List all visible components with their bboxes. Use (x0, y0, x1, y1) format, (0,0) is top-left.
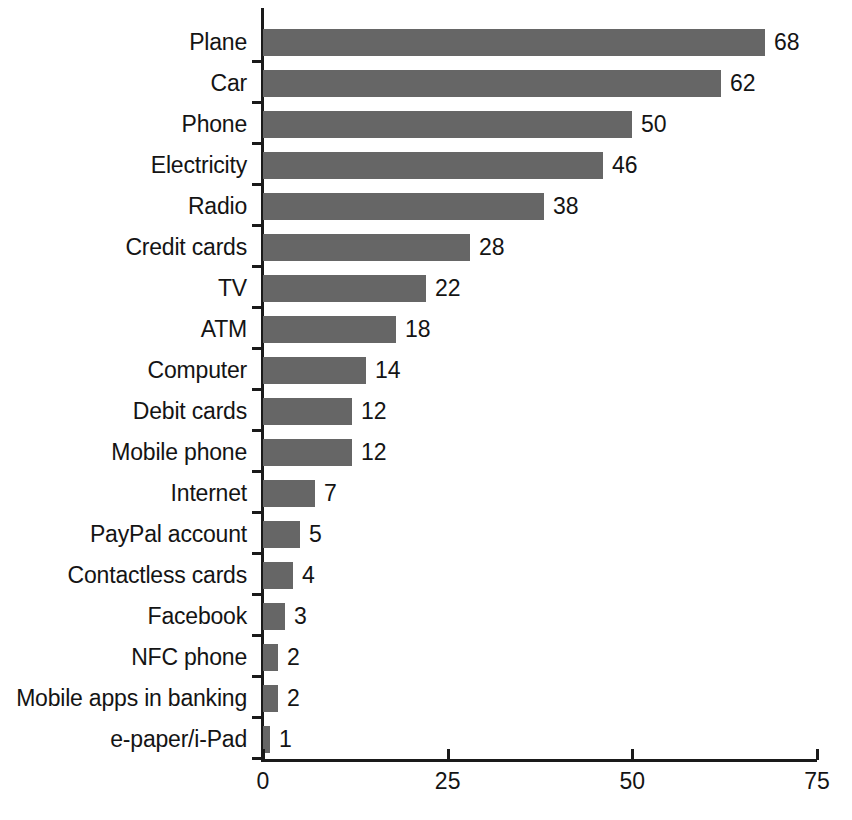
bar-row: TV22 (0, 268, 852, 309)
bar (263, 685, 278, 712)
bar-value-label: 1 (279, 719, 292, 760)
x-axis-tick (816, 749, 819, 760)
bar-row: Radio38 (0, 186, 852, 227)
bar-row: Credit cards28 (0, 227, 852, 268)
x-axis-tick (447, 749, 450, 760)
bar-value-label: 2 (287, 678, 300, 719)
bar (263, 111, 632, 138)
bar-value-label: 5 (309, 514, 322, 555)
bar (263, 480, 315, 507)
bar (263, 562, 293, 589)
bar-value-label: 38 (553, 186, 579, 227)
bar (263, 603, 285, 630)
bar (263, 70, 721, 97)
category-label: Mobile phone (10, 432, 247, 473)
bar-value-label: 22 (435, 268, 461, 309)
bar (263, 275, 426, 302)
category-label: Plane (10, 22, 247, 63)
bar-value-label: 18 (405, 309, 431, 350)
bar-row: Mobile phone12 (0, 432, 852, 473)
category-label: e-paper/i-Pad (10, 719, 247, 760)
bar (263, 644, 278, 671)
category-label: Contactless cards (10, 555, 247, 596)
x-axis-tick (262, 749, 265, 760)
category-label: Credit cards (10, 227, 247, 268)
bar-value-label: 3 (294, 596, 307, 637)
bar-value-label: 68 (774, 22, 800, 63)
category-label: Facebook (10, 596, 247, 637)
bar-row: Plane68 (0, 22, 852, 63)
bar-row: Electricity46 (0, 145, 852, 186)
x-axis-tick-label: 75 (782, 766, 852, 796)
bar-row: PayPal account5 (0, 514, 852, 555)
bar-value-label: 7 (324, 473, 337, 514)
bar (263, 521, 300, 548)
bar-value-label: 46 (612, 145, 638, 186)
x-axis-tick-label: 25 (413, 766, 483, 796)
bar (263, 398, 352, 425)
bar (263, 193, 544, 220)
bar-row: Phone50 (0, 104, 852, 145)
category-label: Computer (10, 350, 247, 391)
category-label: Radio (10, 186, 247, 227)
category-label: Internet (10, 473, 247, 514)
bar-row: Contactless cards4 (0, 555, 852, 596)
bar (263, 357, 366, 384)
bar-row: ATM18 (0, 309, 852, 350)
bar-value-label: 28 (479, 227, 505, 268)
bar-value-label: 50 (641, 104, 667, 145)
bar-value-label: 4 (302, 555, 315, 596)
bar-value-label: 2 (287, 637, 300, 678)
category-label: ATM (10, 309, 247, 350)
bar-row: Mobile apps in banking2 (0, 678, 852, 719)
bar-row: Internet7 (0, 473, 852, 514)
category-label: PayPal account (10, 514, 247, 555)
bar (263, 152, 603, 179)
bar-value-label: 62 (730, 63, 756, 104)
bar-row: Computer14 (0, 350, 852, 391)
plot-area: Plane68Car62Phone50Electricity46Radio38C… (0, 0, 852, 820)
category-label: TV (10, 268, 247, 309)
x-axis-tick-label: 50 (597, 766, 667, 796)
y-axis-tick (252, 757, 262, 760)
category-label: Electricity (10, 145, 247, 186)
category-label: Car (10, 63, 247, 104)
bar (263, 29, 765, 56)
bar-row: Debit cards12 (0, 391, 852, 432)
category-label: NFC phone (10, 637, 247, 678)
bar-chart: Plane68Car62Phone50Electricity46Radio38C… (0, 0, 852, 820)
bar (263, 439, 352, 466)
bar (263, 234, 470, 261)
category-label: Mobile apps in banking (10, 678, 247, 719)
category-label: Debit cards (10, 391, 247, 432)
bar-row: Car62 (0, 63, 852, 104)
bar-row: NFC phone2 (0, 637, 852, 678)
x-axis-tick-label: 0 (228, 766, 298, 796)
bar (263, 316, 396, 343)
x-axis-tick (631, 749, 634, 760)
bar-row: e-paper/i-Pad1 (0, 719, 852, 760)
bar-value-label: 12 (361, 432, 387, 473)
bar-value-label: 12 (361, 391, 387, 432)
bar-value-label: 14 (375, 350, 401, 391)
bar-row: Facebook3 (0, 596, 852, 637)
category-label: Phone (10, 104, 247, 145)
